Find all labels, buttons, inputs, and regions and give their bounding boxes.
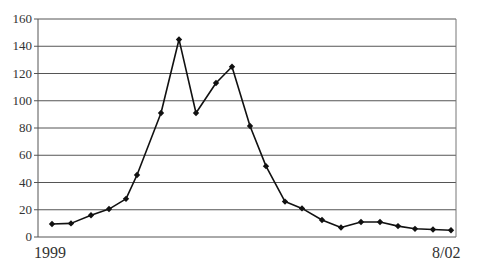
diamond-marker-icon — [358, 219, 364, 225]
diamond-marker-icon — [395, 223, 401, 229]
diamond-marker-icon — [377, 219, 383, 225]
diamond-marker-icon — [299, 205, 305, 211]
diamond-marker-icon — [158, 110, 164, 116]
diamond-marker-icon — [338, 224, 344, 230]
gridlines — [38, 19, 456, 237]
y-tick-label: 160 — [13, 11, 33, 26]
y-tick-label: 20 — [19, 202, 32, 217]
y-tick-label: 140 — [13, 38, 33, 53]
series-line — [52, 39, 451, 230]
y-tick-label: 40 — [19, 175, 32, 190]
diamond-marker-icon — [134, 172, 140, 178]
diamond-marker-icon — [412, 226, 418, 232]
diamond-marker-icon — [88, 212, 94, 218]
diamond-marker-icon — [430, 226, 436, 232]
data-series — [49, 36, 454, 233]
x-end-label: 8/02 — [432, 244, 460, 261]
diamond-marker-icon — [448, 227, 454, 233]
diamond-marker-icon — [49, 221, 55, 227]
y-tick-label: 80 — [19, 120, 32, 135]
line-chart: 020406080100120140160 1999 8/02 — [0, 0, 478, 274]
x-start-label: 1999 — [34, 244, 66, 261]
diamond-marker-icon — [263, 163, 269, 169]
y-tick-label: 120 — [13, 66, 33, 81]
y-tick-label: 0 — [26, 229, 33, 244]
diamond-marker-icon — [176, 36, 182, 42]
y-tick-label: 60 — [19, 147, 32, 162]
diamond-marker-icon — [68, 220, 74, 226]
y-tick-label: 100 — [13, 93, 33, 108]
diamond-marker-icon — [282, 198, 288, 204]
diamond-marker-icon — [319, 217, 325, 223]
